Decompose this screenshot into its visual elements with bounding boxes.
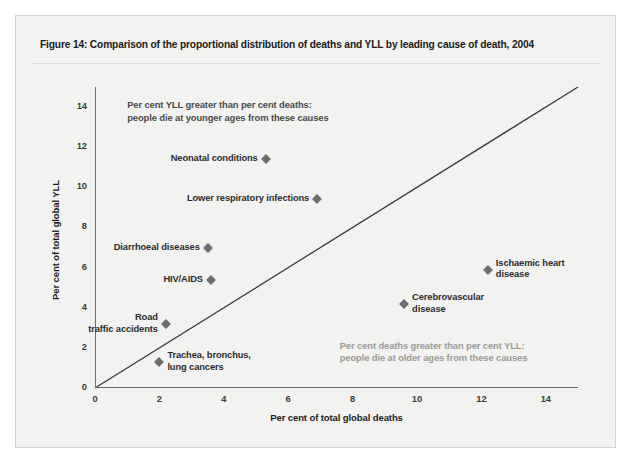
y-tick-label: 14: [65, 101, 87, 111]
data-point-label: Ischaemic heart disease: [496, 258, 565, 281]
data-point-label: Road traffic accidents: [88, 312, 158, 335]
y-tick-label: 2: [65, 342, 87, 352]
data-point-label: Neonatal conditions: [171, 153, 258, 165]
y-tick-label: 4: [65, 302, 87, 312]
data-point-label: Diarrhoeal diseases: [114, 242, 200, 254]
annotation-upper-left: Per cent YLL greater than per cent death…: [127, 99, 328, 124]
data-point-label: Cerebrovascular disease: [412, 292, 484, 315]
data-point-label: Trachea, bronchus, lung cancers: [167, 350, 250, 373]
data-point-label: Lower respiratory infections: [187, 193, 309, 205]
annotation-lower-right: Per cent deaths greater than per cent YL…: [340, 340, 528, 365]
figure-panel: Figure 14: Comparison of the proportiona…: [15, 15, 616, 448]
x-tick-label: 12: [469, 394, 493, 404]
y-axis-title: Per cent of total global YLL: [50, 179, 61, 299]
y-tick-label: 10: [65, 181, 87, 191]
y-tick-label: 12: [65, 141, 87, 151]
x-tick-label: 10: [405, 394, 429, 404]
y-tick-label: 0: [65, 382, 87, 392]
data-point-label: HIV/AIDS: [163, 274, 203, 286]
y-tick-label: 8: [65, 221, 87, 231]
x-tick-label: 0: [83, 394, 107, 404]
x-tick-label: 6: [276, 394, 300, 404]
x-tick-label: 14: [534, 394, 558, 404]
x-tick-label: 4: [212, 394, 236, 404]
x-axis-title: Per cent of total global deaths: [95, 412, 578, 423]
chart-plot-area: 02468101214 02468101214 Per cent of tota…: [16, 16, 617, 449]
x-tick-label: 2: [147, 394, 171, 404]
x-tick-label: 8: [341, 394, 365, 404]
y-tick-label: 6: [65, 262, 87, 272]
